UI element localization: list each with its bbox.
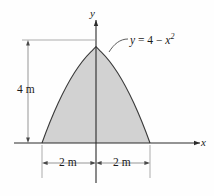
height-dimension-label: 4 m: [17, 84, 35, 96]
equation-exponent: 2: [170, 32, 174, 41]
x-axis-arrowhead: [194, 141, 200, 145]
equation-equals-four: = 4: [135, 34, 156, 46]
width-right-dimension-label: 2 m: [113, 157, 131, 169]
width-left-dimension-label: 2 m: [59, 157, 77, 169]
y-axis-arrowhead: [94, 20, 98, 26]
width-right-arrow-end: [144, 161, 150, 165]
height-dimension-arrow-top: [26, 40, 30, 46]
width-left-arrow-end: [90, 161, 96, 165]
width-left-arrow-start: [42, 161, 48, 165]
height-dimension-arrow-bottom: [26, 137, 30, 143]
figure-canvas: [0, 0, 214, 196]
x-axis-label: x: [201, 137, 206, 148]
equation-minus-sign: −: [156, 34, 165, 46]
width-right-arrow-start: [96, 161, 102, 165]
parabola-figure: y = 4 − x2 y x 4 m 2 m 2 m: [0, 0, 214, 196]
y-axis-label: y: [90, 8, 95, 19]
equation-leader-line: [109, 39, 128, 52]
equation-label: y = 4 − x2: [130, 33, 174, 46]
